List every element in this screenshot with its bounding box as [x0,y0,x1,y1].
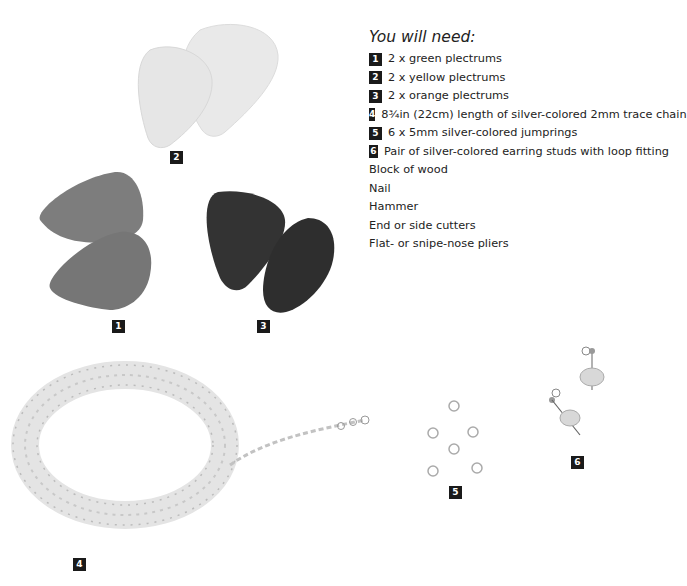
label-green: 1 [112,320,125,333]
label-studs: 6 [571,456,584,469]
item-text: 6 x 5mm silver-colored jumprings [388,124,577,143]
item-text: Flat- or snipe-nose pliers [369,235,509,254]
label-yellow: 2 [170,151,183,164]
item-text: Pair of silver-colored earring studs wit… [384,143,669,162]
list-item: 48¾in (22cm) length of silver-colored 2m… [369,106,669,125]
item-number: 1 [369,53,382,66]
yellow-plectrums-image [130,20,300,150]
item-number: 2 [369,71,382,84]
item-number: 5 [369,127,382,140]
label-jumprings: 5 [449,486,462,499]
label-orange: 3 [257,320,270,333]
green-plectrums-image [35,170,165,310]
item-number: 3 [369,90,382,103]
list-item: Flat- or snipe-nose pliers [369,235,669,254]
item-text: 2 x orange plectrums [388,87,509,106]
item-text: 2 x green plectrums [388,50,502,69]
label-chain: 4 [73,558,86,571]
jumprings-image [420,395,490,475]
item-text: Hammer [369,198,418,217]
item-number: 6 [369,145,378,158]
item-text: 2 x yellow plectrums [388,69,505,88]
earring-studs-image [540,345,650,445]
list-item: 22 x yellow plectrums [369,69,669,88]
list-item: 12 x green plectrums [369,50,669,69]
list-item: Block of wood [369,161,669,180]
item-text: 8¾in (22cm) length of silver-colored 2mm… [381,106,686,125]
item-text: Block of wood [369,161,448,180]
list-item: Hammer [369,198,669,217]
item-text: End or side cutters [369,217,476,236]
list-item: 32 x orange plectrums [369,87,669,106]
item-text: Nail [369,180,391,199]
list-item: 56 x 5mm silver-colored jumprings [369,124,669,143]
orange-plectrums-image [198,190,338,315]
list-item: 6Pair of silver-colored earring studs wi… [369,143,669,162]
materials-list: You will need: 12 x green plectrums 22 x… [369,28,669,254]
list-item: End or side cutters [369,217,669,236]
list-item: Nail [369,180,669,199]
item-number: 4 [369,108,375,121]
chain-image [15,360,375,540]
list-heading: You will need: [369,28,669,46]
